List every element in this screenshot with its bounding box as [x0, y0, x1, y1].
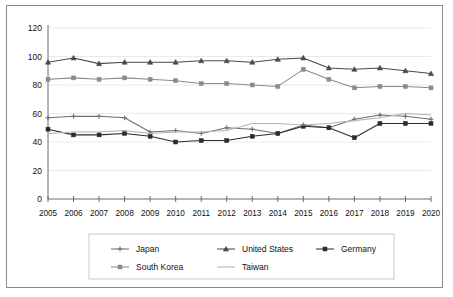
series-line	[48, 115, 431, 134]
data-point	[46, 127, 50, 131]
data-point	[199, 82, 203, 86]
data-point	[250, 83, 254, 87]
data-point	[301, 67, 305, 71]
x-tick-label: 2020	[422, 209, 441, 218]
y-tick-label: 100	[28, 52, 42, 62]
series-united-states	[45, 55, 433, 75]
x-tick-label: 2017	[345, 209, 364, 218]
data-point	[97, 77, 101, 81]
data-point	[429, 86, 433, 90]
data-point	[225, 139, 229, 143]
data-point	[403, 121, 407, 125]
series-line	[48, 58, 431, 74]
chart-frame: 020406080100120 200520062007200820092010…	[6, 5, 443, 288]
data-point	[174, 79, 178, 83]
y-axis: 020406080100120	[28, 23, 48, 204]
data-point	[46, 77, 50, 81]
line-chart: 020406080100120 200520062007200820092010…	[7, 6, 444, 289]
series-japan	[46, 113, 434, 136]
gridlines	[48, 28, 431, 171]
series-south-korea	[46, 67, 433, 90]
data-point	[148, 77, 152, 81]
x-axis: 2005200620072008200920102011201220132014…	[39, 196, 441, 218]
data-point	[378, 121, 382, 125]
data-point	[225, 82, 229, 86]
y-tick-label: 60	[33, 109, 43, 119]
data-point	[352, 86, 356, 90]
x-tick-label: 2005	[39, 209, 58, 218]
x-tick-label: 2010	[167, 209, 186, 218]
x-tick-label: 2018	[371, 209, 390, 218]
x-tick-label: 2007	[90, 209, 109, 218]
data-point	[327, 126, 331, 130]
data-point	[429, 121, 433, 125]
data-point	[123, 131, 127, 135]
x-tick-label: 2014	[269, 209, 288, 218]
data-point	[250, 134, 254, 138]
x-tick-label: 2013	[243, 209, 262, 218]
data-point	[352, 136, 356, 140]
data-point	[403, 84, 407, 88]
data-point	[123, 76, 127, 80]
data-series-group	[45, 55, 433, 144]
y-tick-label: 120	[28, 23, 42, 33]
legend-label: Taiwan	[242, 262, 269, 272]
x-tick-label: 2009	[141, 209, 160, 218]
x-tick-label: 2019	[396, 209, 415, 218]
legend-label: Japan	[136, 244, 159, 254]
y-tick-label: 40	[33, 137, 43, 147]
y-tick-label: 0	[37, 194, 42, 204]
x-tick-label: 2008	[115, 209, 134, 218]
data-point	[97, 133, 101, 137]
data-point	[174, 140, 178, 144]
data-point	[71, 55, 76, 60]
data-point	[199, 139, 203, 143]
x-tick-label: 2011	[192, 209, 210, 218]
chart-plot-area: 020406080100120 200520062007200820092010…	[7, 6, 444, 289]
legend-box	[89, 234, 394, 279]
x-tick-label: 2016	[320, 209, 339, 218]
data-point	[72, 133, 76, 137]
data-point	[148, 134, 152, 138]
legend-marker	[118, 265, 122, 269]
legend-marker	[323, 247, 327, 251]
data-point	[327, 77, 331, 81]
series-germany	[46, 121, 433, 144]
legend-label: Germany	[341, 244, 377, 254]
legend-label: South Korea	[136, 262, 184, 272]
y-tick-label: 80	[33, 80, 43, 90]
data-point	[276, 84, 280, 88]
series-line	[48, 123, 431, 142]
y-tick-label: 20	[33, 166, 43, 176]
data-point	[72, 76, 76, 80]
x-tick-label: 2012	[218, 209, 237, 218]
x-tick-label: 2006	[64, 209, 83, 218]
data-point	[378, 84, 382, 88]
chart-legend: JapanUnited StatesGermanySouth KoreaTaiw…	[89, 234, 394, 279]
data-point	[276, 131, 280, 135]
legend-label: United States	[242, 244, 293, 254]
x-tick-label: 2015	[294, 209, 313, 218]
